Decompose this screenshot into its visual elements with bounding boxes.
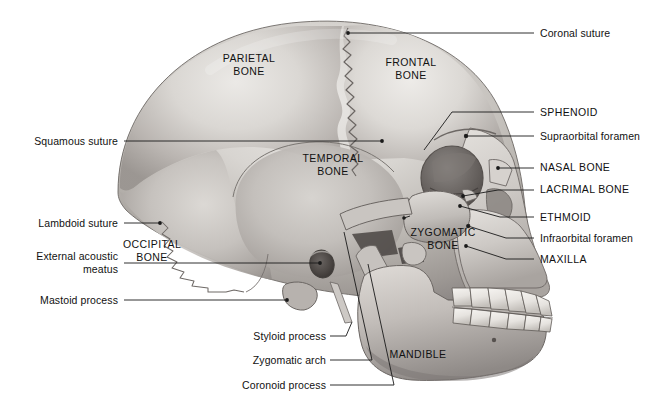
callout-label-coronal-suture: Coronal suture	[540, 27, 659, 40]
callout-label-external-acoustic-meatus: External acoustic meatus	[0, 250, 118, 276]
callout-label-coronoid-process: Coronoid process	[180, 379, 326, 392]
callout-label-ethmoid: ETHMOID	[540, 211, 659, 224]
callout-label-lambdoid-suture: Lambdoid suture	[0, 217, 118, 230]
callout-label-mastoid-process: Mastoid process	[0, 294, 118, 307]
bone-label-mandible: MANDIBLE	[372, 348, 464, 361]
callout-label-zygomatic-arch: Zygomatic arch	[180, 354, 326, 367]
bone-label-frontal: FRONTAL BONE	[372, 56, 450, 81]
leader-dot-supraorbital-foramen	[464, 134, 468, 138]
skull-body	[118, 21, 553, 381]
mastoid-process	[283, 282, 318, 310]
leader-dot-squamous-suture	[380, 139, 384, 143]
skull-diagram: PARIETAL BONE FRONTAL BONE TEMPORAL BONE…	[0, 0, 659, 408]
mental-foramen	[492, 338, 496, 342]
bone-label-temporal: TEMPORAL BONE	[290, 152, 376, 177]
leader-dot-lacrimal-bone	[461, 194, 465, 198]
bone-label-parietal: PARIETAL BONE	[210, 52, 288, 77]
leader-dot-coronal-suture	[346, 31, 350, 35]
callout-label-lacrimal-bone: LACRIMAL BONE	[540, 183, 659, 196]
callout-label-maxilla: MAXILLA	[540, 253, 659, 266]
skull-illustration	[0, 0, 659, 408]
bone-label-occipital: OCCIPITAL BONE	[108, 238, 196, 263]
leader-dot-zygomatic-bone	[402, 216, 406, 220]
leader-dot-ethmoid	[458, 204, 462, 208]
callout-label-infraorbital-foramen: Infraorbital foramen	[540, 232, 659, 245]
callout-label-sphenoid: SPHENOID	[540, 106, 659, 119]
callout-label-nasal-bone: NASAL BONE	[540, 161, 659, 174]
callout-label-squamous-suture: Squamous suture	[0, 135, 118, 148]
leader-dot-lambdoid-suture	[158, 221, 162, 225]
callout-label-styloid-process: Styloid process	[180, 330, 326, 343]
leader-dot-external-acoustic-meatus	[318, 261, 322, 265]
callout-label-supraorbital-foramen: Supraorbital foramen	[540, 130, 659, 143]
leader-dot-mastoid-process	[285, 298, 289, 302]
bone-label-zygomatic: ZYGOMATIC BONE	[396, 226, 490, 251]
leader-styloid-process	[330, 322, 352, 336]
leader-dot-nasal-bone	[496, 166, 500, 170]
